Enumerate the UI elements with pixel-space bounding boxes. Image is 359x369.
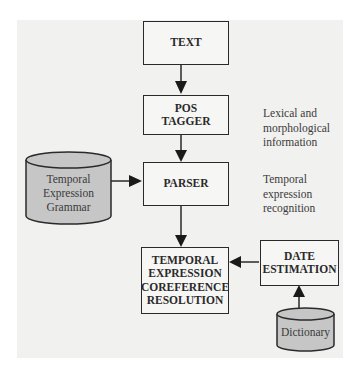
arrow-text-to-pos-tagger: [175, 64, 187, 94]
arrow-date-estimation-to-coreference: [229, 256, 259, 268]
parser-annotation: Temporal expression recognition: [263, 172, 315, 216]
parser-node-label: PARSER: [163, 177, 208, 191]
coreference-label-line2: EXPRESSION: [141, 267, 229, 281]
date-estimation-label-line1: DATE: [263, 250, 337, 264]
parser-node: PARSER: [143, 162, 229, 206]
dictionary-label: Dictionary: [281, 326, 330, 338]
pos-note-line3: information: [263, 135, 330, 150]
parser-note-line2: expression: [263, 187, 315, 202]
arrow-pos-tagger-to-parser: [175, 134, 187, 162]
coreference-label-line4: RESOLUTION: [141, 294, 229, 308]
arrow-grammar-to-parser: [111, 175, 142, 187]
arrow-parser-to-coreference: [175, 205, 187, 247]
date-estimation-node: DATE ESTIMATION: [260, 240, 339, 286]
grammar-label-line3: Grammar: [26, 200, 111, 214]
text-node-label: TEXT: [170, 36, 201, 50]
coreference-label-line1: TEMPORAL: [141, 254, 229, 268]
parser-note-line1: Temporal: [263, 172, 315, 187]
arrow-dictionary-to-date-estimation: [293, 285, 305, 308]
text-node: TEXT: [143, 21, 229, 65]
coreference-resolution-node: TEMPORAL EXPRESSION COREFERENCE RESOLUTI…: [141, 247, 229, 314]
date-estimation-label-line2: ESTIMATION: [263, 263, 337, 277]
pos-tagger-label-line2: TAGGER: [162, 115, 211, 129]
dictionary-database-label: Dictionary: [277, 325, 334, 339]
pos-note-line1: Lexical and: [263, 106, 330, 121]
pos-note-line2: morphological: [263, 121, 330, 136]
pos-tagger-label-line1: POS: [162, 102, 211, 116]
pos-tagger-annotation: Lexical and morphological information: [263, 106, 330, 150]
pos-tagger-node: POS TAGGER: [143, 95, 229, 135]
parser-note-line3: recognition: [263, 201, 315, 216]
grammar-label-line2: Expression: [26, 186, 111, 200]
grammar-label-line1: Temporal: [26, 172, 111, 186]
grammar-database-label: Temporal Expression Grammar: [26, 172, 111, 214]
coreference-label-line3: COREFERENCE: [141, 281, 229, 295]
